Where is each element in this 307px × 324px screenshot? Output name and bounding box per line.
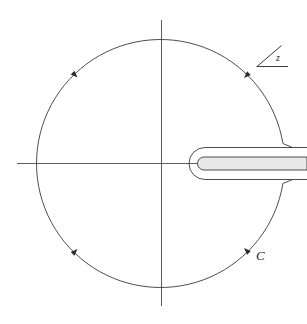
contour-label-c: C [256, 248, 265, 264]
contour-diagram-canvas [0, 0, 307, 324]
arrowhead-lower-left [71, 247, 80, 256]
keyhole-connector-lower [283, 180, 293, 184]
contour-diagram-figure: C z [0, 0, 307, 324]
keyhole-connector-upper [283, 144, 293, 148]
argument-label-z: z [276, 52, 280, 63]
angle-icon [257, 46, 289, 67]
arrowhead-upper-left [71, 71, 80, 80]
arrowhead-upper-right [242, 71, 251, 80]
branch-cut-slit [198, 157, 307, 170]
